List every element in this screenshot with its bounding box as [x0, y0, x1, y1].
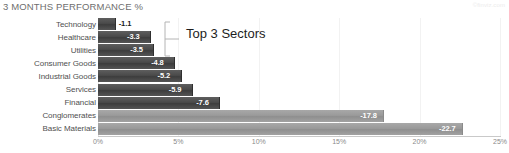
bar-row[interactable]: -3.3 — [98, 31, 500, 43]
bar-row[interactable]: -17.8 — [98, 110, 500, 122]
chart-title: 3 MONTHS PERFORMANCE % — [3, 1, 143, 12]
bar-value-label: -1.1 — [119, 19, 132, 28]
bar-value-label: -22.7 — [439, 124, 456, 133]
x-tick-label: 0% — [93, 138, 103, 145]
x-tick-label: 5% — [173, 138, 183, 145]
bar-healthcare[interactable] — [98, 31, 151, 43]
category-label-financial: Financial — [4, 98, 96, 107]
category-label-basic-materials: Basic Materials — [4, 124, 96, 133]
x-tick-label: 25% — [493, 138, 507, 145]
plot-area: -1.1-3.3-3.5-4.8-5.2-5.9-7.6-17.8-22.7 — [98, 18, 500, 136]
bar-row[interactable]: -7.6 — [98, 97, 500, 109]
bar-value-label: -4.8 — [151, 58, 164, 67]
category-label-utilities: Utilities — [4, 46, 96, 55]
watermark-label: ©finviz.com — [473, 2, 505, 8]
x-tick-label: 20% — [413, 138, 427, 145]
category-label-conglomerates: Conglomerates — [4, 111, 96, 120]
bar-utilities[interactable] — [98, 44, 154, 56]
bar-value-label: -17.8 — [360, 111, 377, 120]
bar-row[interactable]: -22.7 — [98, 123, 500, 135]
category-axis: TechnologyHealthcareUtilitiesConsumer Go… — [2, 18, 96, 136]
category-label-consumer-goods: Consumer Goods — [4, 59, 96, 68]
category-label-technology: Technology — [4, 20, 96, 29]
bar-value-label: -3.3 — [127, 32, 140, 41]
bar-technology[interactable] — [98, 18, 116, 30]
x-axis-line — [98, 136, 501, 137]
x-tick-label: 10% — [252, 138, 266, 145]
x-axis: 0%5%10%15%20%25% — [0, 138, 509, 150]
category-label-services: Services — [4, 85, 96, 94]
performance-bar-chart: 3 MONTHS PERFORMANCE % ©finviz.com Techn… — [0, 0, 509, 153]
category-label-healthcare: Healthcare — [4, 33, 96, 42]
bar-row[interactable]: -3.5 — [98, 44, 500, 56]
gridline — [500, 18, 501, 136]
bar-row[interactable]: -5.2 — [98, 70, 500, 82]
bar-value-label: -5.9 — [169, 85, 182, 94]
bar-row[interactable]: -5.9 — [98, 84, 500, 96]
bar-row[interactable]: -1.1 — [98, 18, 500, 30]
bar-conglomerates[interactable] — [98, 110, 384, 122]
bar-basic-materials[interactable] — [98, 123, 463, 135]
bar-value-label: -3.5 — [130, 45, 143, 54]
bar-value-label: -5.2 — [158, 71, 171, 80]
bar-value-label: -7.6 — [196, 98, 209, 107]
bar-row[interactable]: -4.8 — [98, 57, 500, 69]
x-tick-label: 15% — [332, 138, 346, 145]
category-label-industrial-goods: Industrial Goods — [4, 72, 96, 81]
